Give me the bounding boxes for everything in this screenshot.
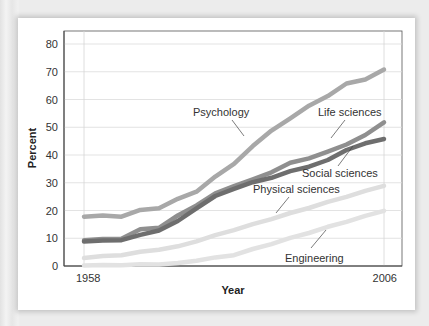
leader-life-sciences (331, 120, 345, 138)
label-social-sciences: Social sciences (302, 167, 378, 179)
label-physical-sciences: Physical sciences (253, 183, 340, 195)
leader-psychology (232, 120, 244, 136)
y-tick-50: 50 (46, 121, 58, 133)
label-life-sciences: Life sciences (318, 106, 382, 118)
y-tick-0: 0 (52, 260, 58, 272)
y-tick-70: 70 (46, 66, 58, 78)
x-tick-1958: 1958 (76, 272, 100, 284)
y-tick-20: 20 (46, 205, 58, 217)
y-axis-title: Percent (26, 127, 38, 168)
y-tick-80: 80 (46, 38, 58, 50)
line-chart: 01020304050607080 1958 2006 Year Percent… (0, 0, 429, 326)
label-psychology: Psychology (193, 106, 250, 118)
x-axis-title: Year (221, 284, 245, 296)
y-tick-10: 10 (46, 232, 58, 244)
x-tick-2006: 2006 (373, 272, 397, 284)
y-tick-60: 60 (46, 94, 58, 106)
label-engineering: Engineering (285, 252, 344, 264)
y-tick-40: 40 (46, 149, 58, 161)
y-tick-30: 30 (46, 177, 58, 189)
y-tick-labels: 01020304050607080 (46, 38, 58, 272)
